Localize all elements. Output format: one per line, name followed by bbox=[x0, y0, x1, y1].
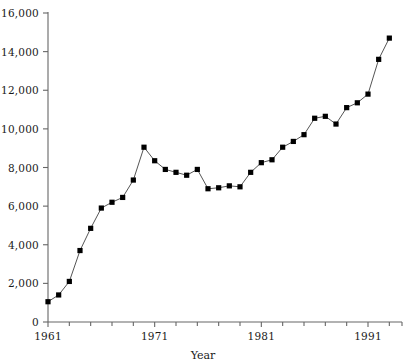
data-point-marker bbox=[173, 170, 178, 175]
data-point-marker bbox=[312, 116, 317, 121]
data-point-marker bbox=[205, 186, 210, 191]
data-point-marker bbox=[259, 160, 264, 165]
data-point-marker bbox=[227, 183, 232, 188]
x-axis-tick-label: 1991 bbox=[354, 330, 382, 342]
data-point-marker bbox=[88, 226, 93, 231]
data-point-marker bbox=[56, 292, 61, 297]
data-point-marker bbox=[344, 105, 349, 110]
x-axis-tick-label: 1961 bbox=[34, 330, 62, 342]
data-point-marker bbox=[195, 167, 200, 172]
y-axis-tick-label: 0 bbox=[0, 316, 39, 328]
data-point-marker bbox=[131, 177, 136, 182]
data-point-marker bbox=[291, 139, 296, 144]
line-chart: 02,0004,0006,0008,00010,00012,00014,0001… bbox=[0, 0, 406, 364]
data-point-marker bbox=[237, 184, 242, 189]
data-point-marker bbox=[152, 158, 157, 163]
data-point-marker bbox=[333, 121, 338, 126]
y-axis-tick-label: 14,000 bbox=[0, 46, 39, 58]
data-point-marker bbox=[365, 92, 370, 97]
y-axis-tick-label: 16,000 bbox=[0, 7, 39, 19]
data-point-marker bbox=[355, 100, 360, 105]
data-point-marker bbox=[323, 114, 328, 119]
data-line bbox=[48, 38, 389, 302]
data-point-marker bbox=[216, 185, 221, 190]
data-point-marker bbox=[141, 145, 146, 150]
data-point-marker bbox=[67, 279, 72, 284]
y-axis-tick-label: 4,000 bbox=[0, 239, 39, 251]
data-point-marker bbox=[248, 170, 253, 175]
data-point-marker bbox=[163, 167, 168, 172]
data-point-marker bbox=[109, 200, 114, 205]
x-axis-tick-label: 1971 bbox=[141, 330, 169, 342]
data-point-marker bbox=[269, 157, 274, 162]
y-axis-tick-label: 8,000 bbox=[0, 162, 39, 174]
data-point-marker bbox=[184, 173, 189, 178]
y-axis-tick-label: 2,000 bbox=[0, 277, 39, 289]
data-point-marker bbox=[45, 299, 50, 304]
data-point-marker bbox=[99, 205, 104, 210]
y-axis-tick-label: 12,000 bbox=[0, 84, 39, 96]
data-point-marker bbox=[77, 248, 82, 253]
plot-area bbox=[0, 0, 406, 364]
data-point-marker bbox=[376, 57, 381, 62]
data-point-marker bbox=[120, 195, 125, 200]
x-axis-tick-label: 1981 bbox=[248, 330, 276, 342]
data-point-marker bbox=[387, 36, 392, 41]
x-axis-title: Year bbox=[0, 349, 406, 362]
y-axis-tick-label: 10,000 bbox=[0, 123, 39, 135]
data-point-marker bbox=[301, 132, 306, 137]
data-point-marker bbox=[280, 145, 285, 150]
y-axis-tick-label: 6,000 bbox=[0, 200, 39, 212]
